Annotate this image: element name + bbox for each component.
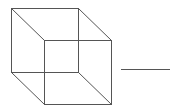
cube-edge-top-left [12, 9, 45, 41]
cube-edge-bottom-right [79, 73, 112, 105]
cube-edge-bottom-left [12, 73, 45, 105]
wireframe-cube [12, 9, 112, 105]
cube-edge-top-right [79, 9, 112, 41]
necker-cube-diagram [0, 0, 176, 106]
